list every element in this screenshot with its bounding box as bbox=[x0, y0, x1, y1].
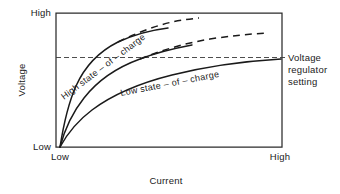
y-axis-tick-low: Low bbox=[33, 141, 51, 152]
regulator-note-line-2: regulator bbox=[288, 64, 327, 75]
curve-mid-extension bbox=[140, 33, 266, 59]
y-axis-tick-high: High bbox=[31, 7, 51, 18]
x-axis-tick-high: High bbox=[270, 151, 290, 162]
y-axis-title: Voltage bbox=[16, 63, 27, 96]
x-axis-tick-low: Low bbox=[51, 151, 69, 162]
chart-canvas: High Low Low High Voltage Current High s… bbox=[0, 0, 340, 194]
regulator-note-line-3: setting bbox=[288, 76, 317, 87]
annotation-low-state-of-charge: Low state – of – charge bbox=[119, 69, 220, 98]
chart-figure: High Low Low High Voltage Current High s… bbox=[0, 0, 340, 194]
regulator-note-line-1: Voltage bbox=[288, 52, 321, 63]
x-axis-title: Current bbox=[149, 175, 182, 186]
